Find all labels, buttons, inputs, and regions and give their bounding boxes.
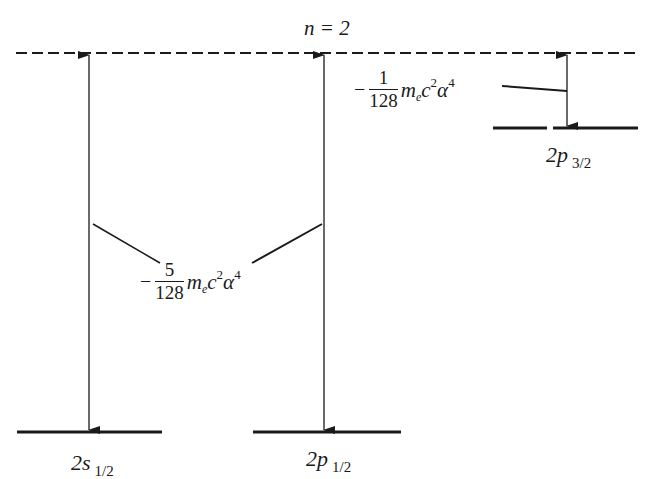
- energy-factor: mec2α4: [187, 267, 241, 297]
- numerator: 5: [155, 260, 184, 282]
- shift-label-2p-threehalf: −1128mec2α4: [354, 68, 455, 111]
- denominator: 128: [369, 90, 398, 111]
- leader-line-2p-threehalf: [502, 86, 567, 91]
- level-label-2p-threehalf: 2p3/2: [546, 142, 591, 168]
- fraction: 5128: [155, 260, 184, 303]
- level-label-2p-half: 2p1/2: [306, 446, 351, 472]
- minus-sign: −: [140, 270, 151, 293]
- energy-level-diagram: [0, 0, 653, 479]
- denominator: 128: [155, 282, 184, 303]
- leader-line-2s: [93, 224, 160, 263]
- level-label-2s-half: 2s1/2: [71, 450, 114, 476]
- shift-label-2s-2p-half: −5128mec2α4: [140, 260, 241, 303]
- leader-line-2p-half: [252, 224, 322, 263]
- energy-factor: mec2α4: [401, 75, 455, 105]
- fraction: 1128: [369, 68, 398, 111]
- numerator: 1: [369, 68, 398, 90]
- minus-sign: −: [354, 78, 365, 101]
- diagram-title: n = 2: [304, 16, 350, 41]
